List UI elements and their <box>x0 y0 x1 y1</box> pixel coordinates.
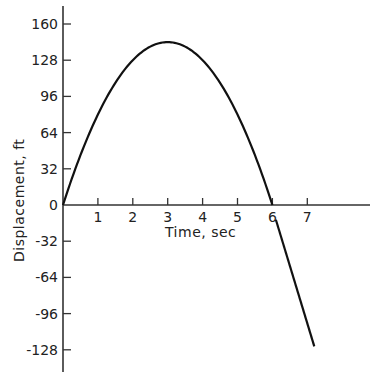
y-axis-title: Displacement, ft <box>11 139 27 262</box>
y-tick-label: -96 <box>35 306 58 322</box>
x-tick-label: 1 <box>93 209 102 225</box>
x-tick-label: 7 <box>303 209 312 225</box>
y-tick-label: -32 <box>35 233 58 249</box>
y-tick-label: 0 <box>49 197 58 213</box>
parabola-curve <box>63 42 272 205</box>
x-tick-label: 3 <box>163 209 172 225</box>
x-tick-label: 4 <box>198 209 207 225</box>
y-tick-label: -128 <box>26 342 58 358</box>
y-tick-label: 96 <box>40 88 58 104</box>
displacement-time-chart: 12345671601289664320-32-64-96-128 Time, … <box>0 0 373 375</box>
y-tick-label: 128 <box>31 52 58 68</box>
y-tick-label: 64 <box>40 125 58 141</box>
y-tick-label: 32 <box>40 161 58 177</box>
axes <box>63 6 370 372</box>
linear-segment <box>276 220 314 347</box>
x-tick-label: 5 <box>233 209 242 225</box>
y-tick-label: 160 <box>31 16 58 32</box>
y-tick-label: -64 <box>35 269 58 285</box>
series <box>63 42 314 346</box>
x-tick-label: 6 <box>268 209 277 225</box>
x-axis-title: Time, sec <box>164 224 236 240</box>
x-tick-label: 2 <box>128 209 137 225</box>
